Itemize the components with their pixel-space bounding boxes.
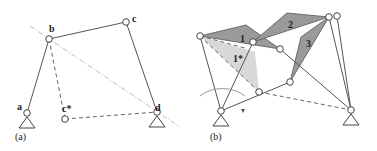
- link-ab: [27, 39, 49, 113]
- label-c: c: [132, 13, 137, 24]
- label-triangle-1-star: 1*: [233, 53, 243, 64]
- label-triangle-3: 3: [306, 38, 311, 49]
- joint-b4: [326, 14, 333, 21]
- caption-a: (a): [15, 131, 26, 143]
- joint-ground-left: [218, 108, 225, 115]
- ground-d-icon: [149, 116, 165, 127]
- link-right-a: [329, 17, 351, 110]
- ground-left-icon: [213, 115, 229, 126]
- joint-b5: [334, 13, 341, 20]
- rotation-arc: [200, 89, 245, 96]
- ground-a-icon: [19, 117, 35, 128]
- joint-b6: [287, 79, 294, 86]
- rotation-arrow-icon: [241, 109, 245, 113]
- joint-b2: [250, 39, 257, 46]
- joint-a: [24, 110, 31, 117]
- joint-c-star: [62, 116, 69, 123]
- label-triangle-1: 1: [240, 33, 245, 44]
- link-c-star-d: [65, 112, 157, 119]
- panel-b: 1 1* 2 3 (b): [197, 13, 359, 143]
- joint-b3: [277, 46, 284, 53]
- joint-ground-right: [348, 107, 355, 114]
- link-1-star-dashed: [259, 92, 351, 110]
- label-b: b: [49, 23, 55, 34]
- link-bc: [49, 22, 126, 39]
- caption-b: (b): [210, 131, 222, 143]
- joint-b: [46, 36, 53, 43]
- joint-b7: [256, 89, 263, 96]
- label-triangle-2: 2: [288, 19, 293, 30]
- diagram-canvas: a b c c* d (a): [0, 0, 377, 151]
- link-cd: [126, 22, 157, 112]
- joint-b1: [197, 33, 204, 40]
- link-right-b: [337, 16, 351, 110]
- label-c-star: c*: [62, 103, 71, 114]
- joint-c: [123, 19, 130, 26]
- label-d: d: [155, 102, 161, 113]
- panel-a: a b c c* d (a): [15, 13, 180, 143]
- ground-right-icon: [343, 114, 359, 125]
- label-a: a: [17, 101, 22, 112]
